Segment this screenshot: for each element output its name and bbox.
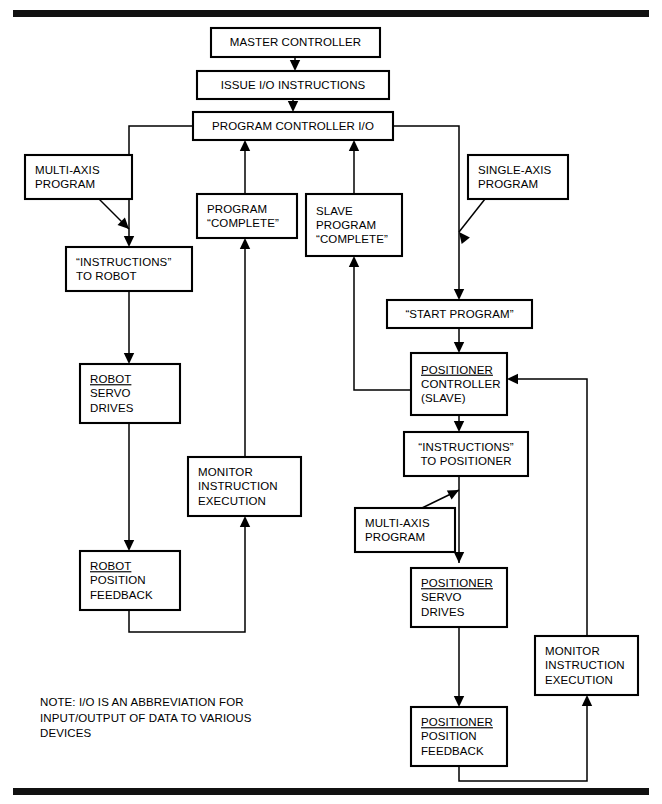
node-master_controller[interactable]: MASTER CONTROLLER <box>211 28 380 57</box>
node-instructions_positioner[interactable]: “INSTRUCTIONS”TO POSITIONER <box>404 432 528 476</box>
node-label-monitor_left-line-2: EXECUTION <box>198 495 266 507</box>
arrowhead-icon <box>349 256 359 267</box>
node-label-master_controller-line-0: MASTER CONTROLLER <box>230 36 361 48</box>
node-label-positioner_servo-line-0: POSITIONER <box>421 577 493 589</box>
node-box-multi_axis_program_1 <box>25 155 132 199</box>
node-label-slave_program_complete-line-1: PROGRAM <box>316 219 376 231</box>
node-multi_axis_program_1[interactable]: MULTI-AXISPROGRAM <box>25 155 132 199</box>
node-label-monitor_right-line-0: MONITOR <box>545 645 600 657</box>
node-positioner_servo[interactable]: POSITIONERSERVODRIVES <box>411 568 507 627</box>
connector-monitor_right-to-positioner_controller <box>507 374 587 636</box>
bottom-rule <box>13 788 649 795</box>
connector-issue_io-to-program_controller_io <box>288 99 298 112</box>
node-label-instructions_to_robot-line-1: TO ROBOT <box>76 270 137 282</box>
node-monitor_left[interactable]: MONITORINSTRUCTIONEXECUTION <box>188 457 301 516</box>
node-label-robot_position_feedback-line-2: FEEDBACK <box>90 589 153 601</box>
node-single_axis_program[interactable]: SINGLE-AXISPROGRAM <box>468 155 568 199</box>
connector-instructions_to_robot-to-robot_servo_drives <box>124 291 134 364</box>
node-label-single_axis_program-line-1: PROGRAM <box>478 178 538 190</box>
arrowhead-icon <box>288 101 298 112</box>
node-label-program_controller_io-line-0: PROGRAM CONTROLLER I/O <box>212 120 374 132</box>
node-start_program[interactable]: “START PROGRAM” <box>387 300 532 328</box>
node-box-single_axis_program <box>468 155 568 199</box>
node-label-monitor_right-line-1: INSTRUCTION <box>545 659 625 671</box>
node-label-single_axis_program-line-0: SINGLE-AXIS <box>478 164 552 176</box>
node-box-instructions_positioner <box>404 432 528 476</box>
flowchart-diagram: MASTER CONTROLLERISSUE I/O INSTRUCTIONSP… <box>0 0 662 804</box>
node-label-robot_servo_drives-line-2: DRIVES <box>90 402 134 414</box>
node-instructions_to_robot[interactable]: “INSTRUCTIONS”TO ROBOT <box>66 247 192 291</box>
note-line-0: NOTE: I/O IS AN ABBREVIATION FOR <box>40 696 244 708</box>
connector-program_complete-to-program_controller_io <box>240 140 250 194</box>
connector-program_controller_io-to-start_program <box>393 126 464 300</box>
node-issue_io[interactable]: ISSUE I/O INSTRUCTIONS <box>197 71 389 99</box>
node-label-program_complete-line-1: “COMPLETE” <box>207 217 279 229</box>
connector-single_axis_program-to-start_program <box>459 199 485 244</box>
node-label-positioner_feedback-line-1: POSITION <box>421 730 477 742</box>
node-label-issue_io-line-0: ISSUE I/O INSTRUCTIONS <box>221 79 366 91</box>
node-label-positioner_controller-line-0: POSITIONER <box>421 364 493 376</box>
node-label-multi_axis_program_1-line-1: PROGRAM <box>35 178 95 190</box>
node-label-instructions_positioner-line-0: “INSTRUCTIONS” <box>418 441 513 453</box>
node-label-multi_axis_program_2-line-0: MULTI-AXIS <box>365 517 430 529</box>
arrowhead-icon <box>454 696 464 707</box>
connector-start_program-to-positioner_controller <box>454 328 464 353</box>
node-label-positioner_controller-line-2: (SLAVE) <box>421 392 466 404</box>
node-label-positioner_feedback-line-2: FEEDBACK <box>421 745 484 757</box>
connector-master_controller-to-issue_io <box>290 57 300 71</box>
node-box-instructions_to_robot <box>66 247 192 291</box>
node-positioner_controller[interactable]: POSITIONERCONTROLLER(SLAVE) <box>411 353 507 415</box>
arrowhead-icon <box>240 516 250 527</box>
arrowhead-icon <box>290 60 300 71</box>
node-program_complete[interactable]: PROGRAM“COMPLETE” <box>197 194 297 238</box>
node-label-instructions_positioner-line-1: TO POSITIONER <box>420 455 511 467</box>
connector-slave_program_complete-to-program_controller_io <box>349 140 359 194</box>
node-label-slave_program_complete-line-0: SLAVE <box>316 205 353 217</box>
arrowhead-icon <box>124 236 134 247</box>
arrowhead-icon <box>349 140 359 151</box>
arrowhead-icon <box>582 695 592 706</box>
note-line-2: DEVICES <box>40 727 91 739</box>
arrowhead-icon <box>459 232 470 244</box>
connector-program_controller_io-to-instructions_to_robot <box>124 126 193 247</box>
arrowhead-icon <box>454 342 464 353</box>
arrowhead-icon <box>240 140 250 151</box>
node-label-positioner_feedback-line-0: POSITIONER <box>421 716 493 728</box>
node-monitor_right[interactable]: MONITORINSTRUCTIONEXECUTION <box>535 636 638 695</box>
arrowhead-icon <box>454 421 464 432</box>
node-label-multi_axis_program_2-line-1: PROGRAM <box>365 531 425 543</box>
node-layer: MASTER CONTROLLERISSUE I/O INSTRUCTIONSP… <box>25 28 638 766</box>
node-label-program_complete-line-0: PROGRAM <box>207 203 267 215</box>
node-multi_axis_program_2[interactable]: MULTI-AXISPROGRAM <box>355 508 455 552</box>
connector-monitor_left-to-program_complete <box>240 238 250 457</box>
arrowhead-icon <box>507 374 518 384</box>
top-rule <box>13 10 649 17</box>
node-label-positioner_servo-line-1: SERVO <box>421 591 462 603</box>
node-label-robot_position_feedback-line-0: ROBOT <box>90 560 131 572</box>
node-label-positioner_servo-line-2: DRIVES <box>421 606 465 618</box>
node-label-robot_servo_drives-line-1: SERVO <box>90 387 131 399</box>
arrowhead-icon <box>454 552 464 563</box>
connector-multi_axis_program_2-to-instructions_positioner <box>422 490 459 508</box>
node-box-program_complete <box>197 194 297 238</box>
connector-positioner_controller-to-instructions_positioner <box>454 415 464 432</box>
node-label-instructions_to_robot-line-0: “INSTRUCTIONS” <box>76 256 171 268</box>
connector-robot_servo_drives-to-robot_position_feedback <box>124 423 134 551</box>
node-label-robot_position_feedback-line-1: POSITION <box>90 574 146 586</box>
note-layer: NOTE: I/O IS AN ABBREVIATION FORINPUT/OU… <box>40 696 252 739</box>
figure-page: MASTER CONTROLLERISSUE I/O INSTRUCTIONSP… <box>0 0 662 804</box>
node-label-start_program-line-0: “START PROGRAM” <box>405 308 513 320</box>
connector-positioner_servo-to-positioner_feedback <box>454 627 464 707</box>
node-robot_position_feedback[interactable]: ROBOTPOSITIONFEEDBACK <box>80 551 180 610</box>
node-robot_servo_drives[interactable]: ROBOTSERVODRIVES <box>80 364 180 423</box>
node-box-multi_axis_program_2 <box>355 508 455 552</box>
node-program_controller_io[interactable]: PROGRAM CONTROLLER I/O <box>193 112 393 140</box>
node-label-positioner_controller-line-1: CONTROLLER <box>421 378 501 390</box>
node-slave_program_complete[interactable]: SLAVEPROGRAM“COMPLETE” <box>306 194 402 256</box>
node-label-multi_axis_program_1-line-0: MULTI-AXIS <box>35 164 100 176</box>
note-line-1: INPUT/OUTPUT OF DATA TO VARIOUS <box>40 712 252 724</box>
node-positioner_feedback[interactable]: POSITIONERPOSITIONFEEDBACK <box>411 707 507 766</box>
arrowhead-icon <box>454 289 464 300</box>
node-label-monitor_right-line-2: EXECUTION <box>545 674 613 686</box>
node-label-monitor_left-line-0: MONITOR <box>198 466 253 478</box>
